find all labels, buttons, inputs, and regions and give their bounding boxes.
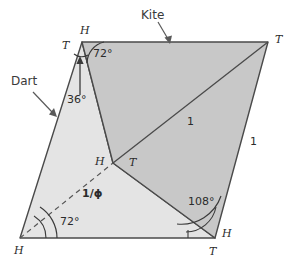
angle-label-apex-72: 72° — [93, 48, 113, 59]
vertex-label-bottom-right-t: T — [209, 246, 216, 257]
kite-callout-arrow-shaft — [158, 22, 168, 39]
vertex-label-center-t: T — [129, 157, 136, 168]
vertex-label-bottom-right-h: H — [222, 228, 232, 239]
vertex-label-center-h: H — [95, 156, 105, 167]
kite-label: Kite — [141, 9, 164, 21]
dart-callout-arrow-shaft — [33, 92, 52, 112]
vertex-label-bottom-left-h: H — [14, 245, 24, 256]
diagram-canvas — [0, 0, 299, 268]
angle-label-dart-36: 36° — [67, 94, 87, 105]
vertex-label-top-left-t: T — [62, 40, 69, 51]
vertex-label-top-right-t: T — [275, 34, 282, 45]
angle-label-kite-108: 108° — [188, 196, 215, 207]
length-label-diagonal: 1 — [187, 116, 194, 127]
length-label-dashed-phi: 1/ϕ — [82, 188, 102, 199]
penrose-kite-dart-figure: Kite Dart H T T H T H H T 72° 36° 72° 10… — [0, 0, 299, 268]
vertex-label-top-left-h: H — [80, 25, 90, 36]
dart-label: Dart — [11, 75, 37, 87]
length-label-right-edge: 1 — [250, 136, 257, 147]
angle-label-base-72: 72° — [60, 216, 80, 227]
